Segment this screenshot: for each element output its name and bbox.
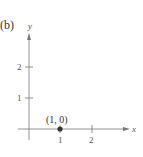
y-axis-label: y [28,21,32,31]
y-axis-arrow [27,33,31,40]
x-tick-2: 2 [89,136,94,145]
panel-label: (b) [0,20,14,31]
point-label: (1, 0) [46,114,68,125]
coordinate-plot [0,0,143,157]
x-tick-1: 1 [58,136,63,145]
x-axis-arrow [123,127,130,131]
y-tick-2: 2 [17,63,22,72]
x-axis-label: x [132,124,136,134]
data-point [57,126,62,131]
y-tick-1: 1 [17,94,22,103]
